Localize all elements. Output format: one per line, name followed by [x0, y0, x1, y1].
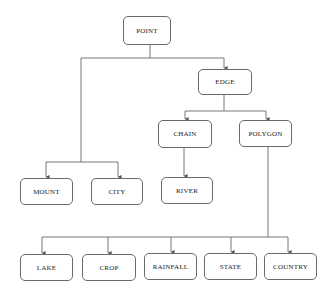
node-label: RIVER	[176, 187, 198, 195]
node-label: POINT	[136, 27, 158, 35]
node-crop: CROP	[82, 254, 136, 281]
node-point: POINT	[123, 16, 171, 45]
node-label: RAINFALL	[153, 263, 189, 271]
node-label: COUNTRY	[273, 263, 308, 271]
node-label: MOUNT	[33, 188, 60, 196]
node-label: CROP	[99, 264, 118, 272]
node-rainfall: RAINFALL	[144, 253, 197, 280]
node-label: LAKE	[37, 264, 56, 272]
node-river: RIVER	[161, 177, 213, 204]
node-label: EDGE	[215, 78, 234, 86]
node-label: POLYGON	[248, 130, 282, 138]
node-edge: EDGE	[198, 69, 252, 95]
hierarchy-diagram: POINT EDGE CHAIN POLYGON MOUNT CITY RIVE…	[0, 0, 335, 295]
node-country: COUNTRY	[264, 253, 317, 280]
node-mount: MOUNT	[20, 178, 73, 205]
node-polygon: POLYGON	[239, 120, 292, 147]
node-state: STATE	[204, 253, 257, 280]
node-label: CHAIN	[173, 130, 196, 138]
node-chain: CHAIN	[158, 120, 212, 148]
node-lake: LAKE	[20, 254, 73, 281]
node-label: STATE	[220, 263, 241, 271]
node-label: CITY	[108, 188, 125, 196]
node-city: CITY	[91, 178, 143, 205]
